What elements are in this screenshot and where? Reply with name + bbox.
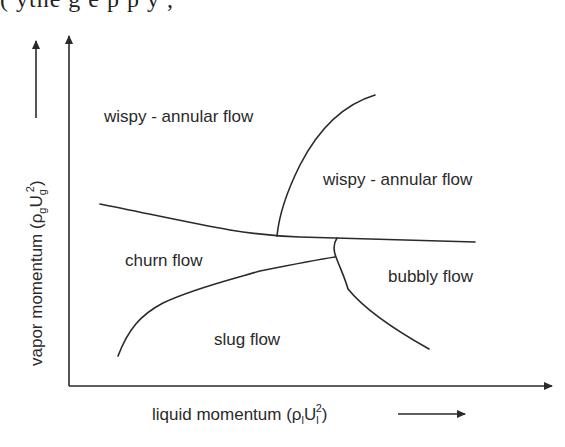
region-label-slug: slug flow <box>214 330 281 349</box>
x-axis-label-prefix: liquid momentum (ρ <box>152 405 302 424</box>
y-axis-label-sub2: g <box>36 189 48 195</box>
x-axis-label: liquid momentum (ρlUl2) <box>152 402 465 426</box>
svg-text:liquid momentum (ρlUl2): liquid momentum (ρlUl2) <box>152 402 327 426</box>
y-axis-label-mid: U <box>27 195 46 207</box>
region-label-churn: churn flow <box>125 251 203 270</box>
region-label-wispy-annular-left: wispy - annular flow <box>103 107 254 126</box>
svg-text:vapor momentum (ρgUg2): vapor momentum (ρgUg2) <box>24 180 48 366</box>
axes <box>69 36 552 386</box>
region-label-wispy-annular-right: wispy - annular flow <box>322 170 473 189</box>
x-axis-label-sub2: l <box>316 414 318 426</box>
annular-churn-boundary <box>100 204 475 242</box>
y-axis-label: vapor momentum (ρgUg2) <box>24 41 48 366</box>
x-axis-label-mid: U <box>304 405 316 424</box>
region-labels: wispy - annular flow wispy - annular flo… <box>103 107 474 349</box>
region-label-bubbly: bubbly flow <box>388 267 474 286</box>
bubbly-boundary <box>334 238 429 349</box>
flow-regime-diagram: wispy - annular flow wispy - annular flo… <box>0 0 565 447</box>
y-axis-label-prefix: vapor momentum (ρ <box>27 214 46 366</box>
x-axis-label-suffix: ) <box>322 405 328 424</box>
annular-split-boundary <box>277 95 375 236</box>
y-axis-label-suffix: ) <box>27 180 46 186</box>
regime-boundaries <box>100 95 475 356</box>
